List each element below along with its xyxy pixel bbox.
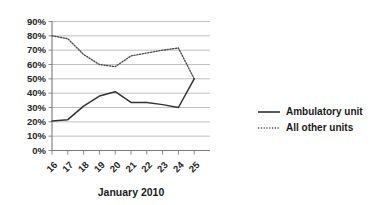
x-tick-label: 18 bbox=[76, 159, 91, 174]
y-tick-label: 70% bbox=[27, 44, 47, 55]
x-tick-label: 21 bbox=[123, 159, 139, 175]
x-tick-label: 25 bbox=[186, 159, 202, 175]
series-ambulatory-unit bbox=[52, 79, 194, 121]
y-tick-label: 30% bbox=[27, 102, 47, 113]
legend-label-all-other-units: All other units bbox=[286, 122, 354, 133]
x-tick-label: 24 bbox=[171, 159, 187, 175]
x-tick-label: 23 bbox=[155, 159, 170, 174]
y-axis-tick-labels: 0%10%20%30%40%50%60%70%80%90% bbox=[27, 16, 47, 156]
y-tick-label: 90% bbox=[27, 16, 47, 27]
y-tick-label: 60% bbox=[27, 59, 47, 70]
x-tick-label: 19 bbox=[92, 159, 107, 174]
y-tick-label: 50% bbox=[27, 73, 47, 84]
y-tick-label: 80% bbox=[27, 30, 47, 41]
gridlines bbox=[52, 22, 210, 137]
x-tick-label: 22 bbox=[139, 159, 154, 174]
x-tick-label: 17 bbox=[60, 159, 75, 174]
x-axis-tick-labels: 16171819202122232425 bbox=[44, 159, 202, 175]
x-tick-label: 16 bbox=[44, 159, 59, 174]
x-axis-title: January 2010 bbox=[98, 186, 165, 198]
x-tick-label: 20 bbox=[107, 159, 122, 174]
y-tick-label: 20% bbox=[27, 116, 47, 127]
series-line-dotted bbox=[52, 36, 194, 79]
series-line-solid bbox=[52, 79, 194, 121]
series-all-other-units bbox=[52, 36, 194, 79]
line-chart: 0%10%20%30%40%50%60%70%80%90% 1617181920… bbox=[0, 0, 373, 205]
y-tick-label: 0% bbox=[32, 145, 46, 156]
y-tick-label: 10% bbox=[27, 130, 47, 141]
legend: Ambulatory unit All other units bbox=[258, 106, 363, 133]
y-tick-label: 40% bbox=[27, 87, 47, 98]
x-axis-tickmarks bbox=[52, 151, 194, 155]
legend-label-ambulatory-unit: Ambulatory unit bbox=[286, 106, 363, 117]
